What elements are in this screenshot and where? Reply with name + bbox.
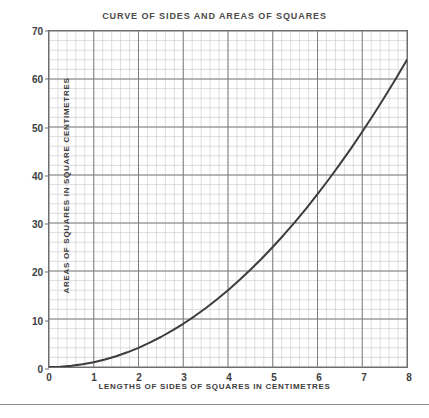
cropped-text-artifact-bottom (95, 396, 345, 402)
y-tick-label-30: 30 (32, 219, 43, 230)
curve-series (49, 31, 407, 367)
y-tick-label-10: 10 (32, 315, 43, 326)
x-axis-title: LENGTHS OF SIDES OF SQUARES IN CENTIMETR… (0, 382, 429, 391)
y-tick-mark-0 (45, 369, 49, 370)
plot-area: AREAS OF SQUARES IN SQUARE CENTIMETRES 0… (48, 30, 408, 368)
y-tick-label-60: 60 (32, 74, 43, 85)
y-tick-mark-60 (45, 79, 49, 80)
cropped-text-artifact-top (62, 0, 212, 6)
y-tick-mark-70 (45, 31, 49, 32)
bottom-divider (0, 404, 429, 405)
y-tick-label-20: 20 (32, 267, 43, 278)
y-tick-mark-20 (45, 272, 49, 273)
y-tick-mark-50 (45, 127, 49, 128)
y-tick-mark-10 (45, 320, 49, 321)
y-tick-mark-40 (45, 175, 49, 176)
y-tick-label-40: 40 (32, 170, 43, 181)
y-tick-mark-30 (45, 224, 49, 225)
y-tick-label-50: 50 (32, 122, 43, 133)
y-axis-title: AREAS OF SQUARES IN SQUARE CENTIMETRES (62, 31, 71, 341)
y-tick-label-0: 0 (37, 364, 43, 375)
y-tick-label-70: 70 (32, 26, 43, 37)
chart-title: CURVE OF SIDES AND AREAS OF SQUARES (0, 11, 429, 21)
